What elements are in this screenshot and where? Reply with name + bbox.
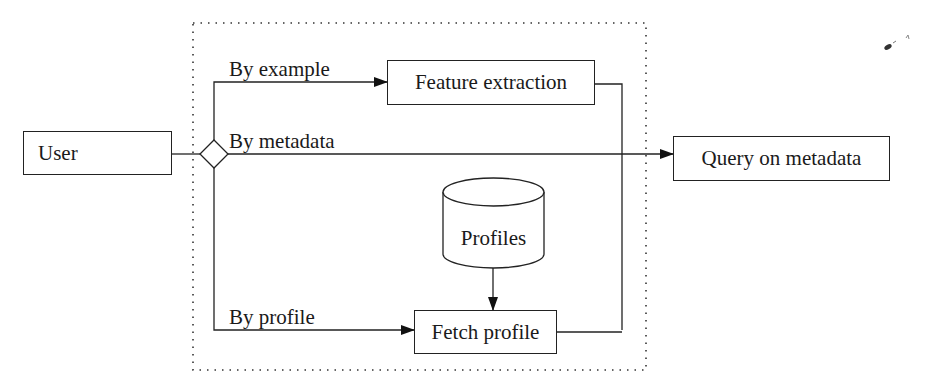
user-node-label: User xyxy=(38,141,78,166)
edge-label-by-metadata: By metadata xyxy=(229,131,335,152)
fetch-profile-label: Fetch profile xyxy=(432,320,540,345)
decision-diamond xyxy=(200,140,228,168)
scan-artifact xyxy=(883,35,909,51)
edge-label-by-example: By example xyxy=(229,59,330,80)
edge-label-by-profile: By profile xyxy=(229,307,315,328)
feature-extraction-label: Feature extraction xyxy=(415,70,567,95)
query-on-metadata-label: Query on metadata xyxy=(702,146,862,171)
query-on-metadata-node: Query on metadata xyxy=(673,136,890,181)
feature-extraction-node: Feature extraction xyxy=(387,60,595,105)
profiles-label: Profiles xyxy=(443,228,544,249)
user-node: User xyxy=(23,131,172,175)
profiles-database-icon xyxy=(443,178,544,268)
fetch-profile-node: Fetch profile xyxy=(414,310,557,354)
edge-feature-extraction-out xyxy=(595,84,622,330)
